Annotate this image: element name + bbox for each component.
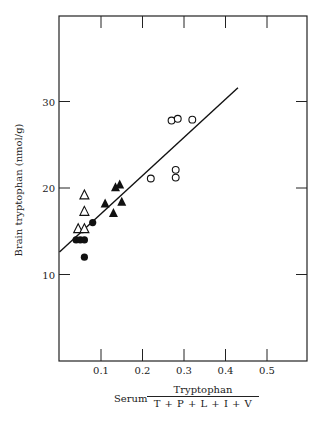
scatter-chart: 0.10.20.30.40.5102030 Brain tryptophan (… bbox=[0, 0, 319, 384]
y-tick-label: 30 bbox=[42, 97, 55, 108]
open-circle-marker bbox=[189, 116, 196, 123]
filled-triangle-marker bbox=[101, 199, 110, 208]
plot-frame bbox=[59, 16, 307, 361]
open-circle-marker bbox=[147, 175, 154, 182]
y-tick-label: 20 bbox=[42, 183, 55, 194]
x-tick-label: 0.1 bbox=[93, 365, 109, 376]
open-triangle-marker bbox=[80, 224, 89, 233]
open-triangle-marker bbox=[80, 190, 89, 199]
filled-triangle-marker bbox=[115, 180, 124, 189]
plot-border bbox=[59, 16, 307, 361]
filled-circle-marker bbox=[81, 236, 88, 243]
x-axis-title-prefix: Serum bbox=[114, 393, 147, 404]
open-triangle-marker bbox=[80, 206, 89, 215]
x-axis-title-fraction: Tryptophan T + P + L + I + V bbox=[147, 384, 259, 409]
x-axis-title-denominator: T + P + L + I + V bbox=[147, 397, 259, 409]
y-axis-title: Brain tryptophan (nmol/g) bbox=[13, 123, 24, 256]
filled-circle-marker bbox=[89, 219, 96, 226]
data-points bbox=[73, 115, 196, 260]
x-axis-title: Serum Tryptophan T + P + L + I + V bbox=[0, 384, 319, 424]
y-tick-label: 10 bbox=[42, 270, 55, 281]
x-axis-title-numerator: Tryptophan bbox=[147, 384, 259, 397]
filled-circle-marker bbox=[81, 254, 88, 261]
open-circle-marker bbox=[174, 115, 181, 122]
open-circle-marker bbox=[172, 174, 179, 181]
x-tick-label: 0.5 bbox=[259, 365, 275, 376]
x-tick-label: 0.3 bbox=[176, 365, 192, 376]
x-tick-label: 0.2 bbox=[135, 365, 151, 376]
axis-ticks bbox=[59, 16, 307, 361]
filled-triangle-marker bbox=[109, 208, 118, 217]
x-tick-label: 0.4 bbox=[218, 365, 234, 376]
open-circle-marker bbox=[172, 166, 179, 173]
